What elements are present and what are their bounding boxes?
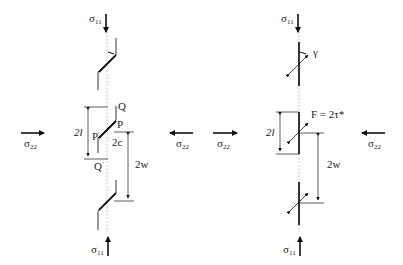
kink-band-diagram: σ11 2l Q P P' Q' 2c 2w σ11 σ22 bbox=[0, 0, 403, 265]
sigma22-left-label: σ22 bbox=[217, 137, 230, 151]
sigma11-top-label: σ11 bbox=[281, 12, 294, 26]
label-2c: 2c bbox=[112, 136, 123, 148]
top-angle-tick bbox=[108, 52, 114, 54]
label-2w: 2w bbox=[327, 158, 341, 170]
label-Q: Q bbox=[118, 100, 126, 112]
label-Q-prime: Q' bbox=[94, 160, 103, 172]
sigma22-right-label: σ22 bbox=[176, 137, 189, 151]
sigma11-bottom-label: σ11 bbox=[91, 243, 104, 257]
gamma-angle-tick bbox=[300, 52, 306, 54]
right-panel: σ11 γ 2l F = 2τ* 2w σ11 σ22 σ22 bbox=[213, 12, 385, 257]
label-2w: 2w bbox=[135, 158, 149, 170]
sigma22-right-label: σ22 bbox=[368, 137, 381, 151]
kink-band-outline bbox=[276, 112, 299, 154]
label-2l: 2l bbox=[74, 126, 83, 138]
label-gamma: γ bbox=[312, 46, 318, 58]
sigma11-bottom-label: σ11 bbox=[283, 243, 296, 257]
label-2l: 2l bbox=[266, 126, 275, 138]
sigma11-top-label: σ11 bbox=[89, 12, 102, 26]
label-P: P bbox=[117, 118, 123, 130]
label-force: F = 2τ* bbox=[311, 108, 344, 120]
left-panel: σ11 2l Q P P' Q' 2c 2w σ11 σ22 bbox=[21, 12, 193, 257]
sigma22-left-label: σ22 bbox=[24, 137, 37, 151]
